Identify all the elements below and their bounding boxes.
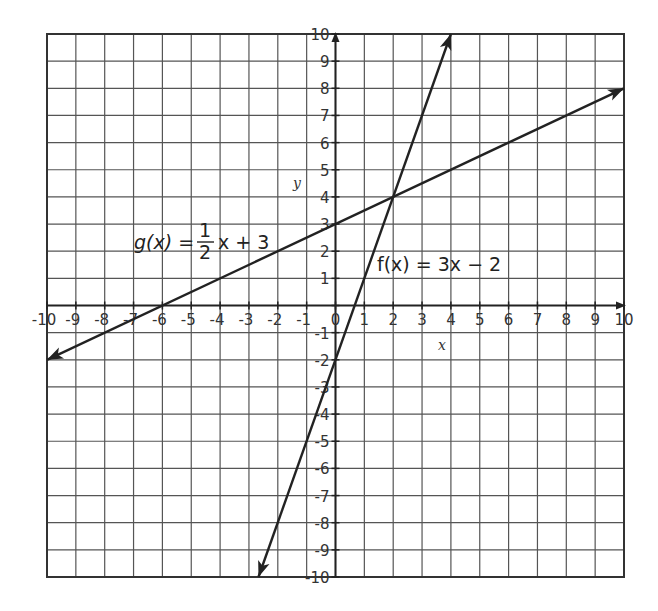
svg-text:g(x) =: g(x) = (134, 231, 194, 253)
x-tick-label: 7 (533, 311, 543, 329)
x-tick-label: -1 (296, 311, 311, 329)
x-tick-label: 1 (360, 311, 370, 329)
x-tick-label: -3 (238, 311, 253, 329)
x-tick-label: 9 (590, 311, 600, 329)
coordinate-plane: -10-9-8-7-6-5-4-3-2-1012345678910 -10-9-… (0, 0, 658, 611)
x-tick-label: 10 (614, 311, 633, 329)
y-tick-label: -6 (315, 460, 330, 478)
x-tick-label: 6 (504, 311, 514, 329)
x-tick-label: 5 (475, 311, 485, 329)
y-tick-label: 2 (320, 243, 330, 261)
y-tick-label: 10 (310, 26, 329, 44)
y-tick-label: 4 (320, 189, 330, 207)
y-tick-label: -1 (315, 325, 330, 343)
y-tick-label: -10 (305, 569, 330, 587)
y-tick-label: 5 (320, 162, 330, 180)
y-tick-label: 9 (320, 53, 330, 71)
y-tick-label: -8 (315, 515, 330, 533)
x-axis-label: x (438, 337, 446, 353)
y-tick-label: -2 (315, 352, 330, 370)
y-tick-label: 1 (320, 270, 330, 288)
f-label: f(x) = 3x − 2 (377, 253, 501, 275)
y-axis-label: y (292, 175, 302, 191)
x-tick-label: 4 (446, 311, 456, 329)
x-tick-label: -6 (152, 311, 167, 329)
x-tick-label: 2 (388, 311, 398, 329)
y-tick-label: -7 (315, 488, 330, 506)
x-tick-label: 0 (331, 311, 341, 329)
fraction-denominator: 2 (199, 241, 211, 263)
y-tick-label: 8 (320, 80, 330, 98)
y-tick-label: -5 (315, 433, 330, 451)
x-tick-label: -8 (94, 311, 109, 329)
y-tick-label: 6 (320, 135, 330, 153)
x-tick-label: -4 (210, 311, 225, 329)
x-tick-label: -5 (181, 311, 196, 329)
fraction-numerator: 1 (199, 219, 211, 241)
x-tick-label: -9 (65, 311, 80, 329)
x-tick-label: 8 (562, 311, 572, 329)
y-tick-label: -9 (315, 542, 330, 560)
y-tick-label: 7 (320, 107, 330, 125)
x-tick-label: -2 (267, 311, 282, 329)
x-tick-label: -10 (32, 311, 57, 329)
g-label-rest: x + 3 (218, 231, 269, 253)
x-tick-label: 3 (417, 311, 427, 329)
